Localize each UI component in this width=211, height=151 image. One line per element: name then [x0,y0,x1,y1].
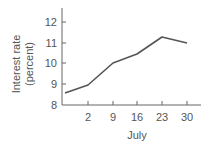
interest-rate-line [65,37,187,93]
y-tick-label: 10 [45,57,57,69]
x-tick-label: 30 [181,111,193,123]
y-axis-title-line1: Interest rate [10,35,22,94]
y-axis-title: Interest rate (percent) [10,35,35,94]
line-chart: 8 9 10 11 12 2 9 16 23 30 July Interest … [0,0,211,151]
y-tick-label: 11 [46,37,57,49]
x-axis-title: July [127,129,147,141]
y-tick-label: 8 [51,99,57,111]
x-tick-label: 2 [85,111,91,123]
x-ticks [88,101,187,105]
y-tick-label: 12 [45,16,57,28]
x-tick-labels: 2 9 16 23 30 [85,111,193,123]
x-tick-label: 16 [131,111,143,123]
y-tick-label: 9 [51,78,57,90]
y-axis-title-line2: (percent) [23,42,35,86]
x-tick-label: 9 [110,111,116,123]
x-tick-label: 23 [156,111,168,123]
y-tick-labels: 8 9 10 11 12 [45,16,57,111]
y-ticks [62,22,66,84]
